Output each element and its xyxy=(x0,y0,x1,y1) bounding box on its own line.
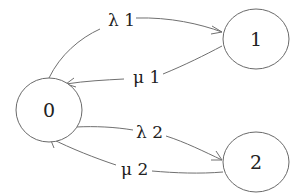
edge-label-mu-1: μ 1 xyxy=(133,67,160,87)
node-label: 2 xyxy=(250,151,262,173)
node-label: 1 xyxy=(250,28,262,50)
edge-line xyxy=(49,29,100,78)
edge-line xyxy=(136,18,222,32)
edge-label-lambda-2: λ 2 xyxy=(136,122,163,142)
edge-1-to-0: μ 1 xyxy=(66,46,222,87)
node-label: 0 xyxy=(43,99,55,121)
edge-0-to-2: λ 2 xyxy=(76,122,222,160)
node-1: 1 xyxy=(223,9,289,69)
edge-line xyxy=(163,46,222,74)
edge-line xyxy=(50,138,116,165)
edge-label-lambda-1: λ 1 xyxy=(108,10,135,30)
edge-line xyxy=(76,127,133,130)
edge-2-to-0: μ 2 xyxy=(50,138,223,179)
node-2: 2 xyxy=(223,132,289,192)
edge-line xyxy=(166,136,222,160)
edge-label-mu-2: μ 2 xyxy=(121,159,148,179)
state-diagram: λ 1 μ 1 λ 2 μ 2 0 1 2 xyxy=(0,0,306,195)
node-0: 0 xyxy=(16,78,82,142)
edge-line xyxy=(152,171,223,173)
edge-line xyxy=(66,79,124,84)
